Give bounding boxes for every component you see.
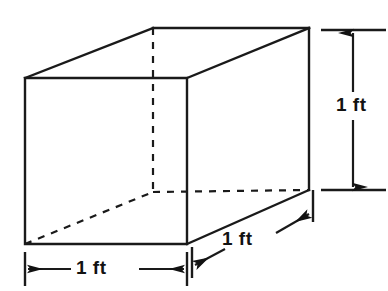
depth-dimension-label: 1 ft [222, 229, 253, 248]
height-dimension-label: 1 ft [336, 95, 367, 114]
front-face-edges [25, 78, 187, 244]
hidden-bottom-left-receding-edge [25, 192, 153, 244]
width-dimension-label: 1 ft [76, 258, 107, 277]
depth-arrow-near [195, 249, 225, 265]
cube-diagram-svg [0, 0, 388, 291]
top-left-receding-edge [25, 28, 153, 78]
top-right-receding-edge [187, 28, 309, 78]
cube-diagram: 1 ft 1 ft 1 ft [0, 0, 388, 291]
hidden-bottom-back-edge [153, 190, 309, 192]
cube-visible-edges [25, 28, 309, 244]
depth-arrow-far [276, 214, 309, 233]
